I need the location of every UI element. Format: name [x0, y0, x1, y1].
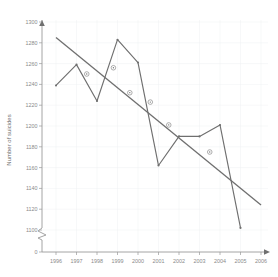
- x-tick-label: 1997: [71, 258, 83, 264]
- trend-marker-dot: [209, 151, 210, 152]
- chart-container: 0110011201140116011801200122012401260128…: [0, 0, 278, 277]
- series-data-point: [55, 84, 57, 86]
- series-data-point: [219, 124, 221, 126]
- x-tick-label: 2001: [153, 258, 165, 264]
- trend-marker-dot: [150, 101, 151, 102]
- x-tick-label: 2000: [132, 258, 144, 264]
- x-tick-label: 1999: [112, 258, 124, 264]
- y-tick-label: 0: [35, 249, 38, 255]
- x-tick-label: 2002: [173, 258, 185, 264]
- trend-marker-dot: [86, 73, 87, 74]
- y-tick-label: 1280: [26, 40, 38, 46]
- y-tick-label: 1300: [26, 19, 38, 25]
- y-tick-label: 1220: [26, 102, 38, 108]
- trend-marker-dot: [129, 92, 130, 93]
- y-tick-label: 1240: [26, 81, 38, 87]
- x-tick-label: 1998: [91, 258, 103, 264]
- x-tick-label: 2005: [235, 258, 247, 264]
- y-tick-label: 1200: [26, 123, 38, 129]
- y-tick-label: 1160: [26, 165, 38, 171]
- y-tick-label: 1180: [26, 144, 38, 150]
- series-data-point: [157, 164, 159, 166]
- y-tick-label: 1100: [26, 227, 38, 233]
- y-tick-label: 1260: [26, 61, 38, 67]
- cropped-top-text: [14, 0, 17, 4]
- x-tick-label: 1996: [50, 258, 62, 264]
- x-tick-label: 2006: [255, 258, 267, 264]
- trend-marker-dot: [168, 124, 169, 125]
- x-tick-label: 2004: [214, 258, 226, 264]
- series-data-point: [137, 62, 139, 64]
- series-data-point: [239, 227, 241, 229]
- y-tick-label: 1140: [26, 185, 38, 191]
- trend-marker-dot: [113, 67, 114, 68]
- series-data-point: [96, 100, 98, 102]
- y-tick-label: 1120: [26, 206, 38, 212]
- x-tick-label: 2003: [194, 258, 206, 264]
- y-axis-title: Number of suicides: [6, 114, 12, 165]
- suicides-line-chart: 0110011201140116011801200122012401260128…: [0, 0, 278, 277]
- series-data-point: [198, 135, 200, 137]
- series-data-point: [116, 39, 118, 41]
- series-data-point: [75, 64, 77, 66]
